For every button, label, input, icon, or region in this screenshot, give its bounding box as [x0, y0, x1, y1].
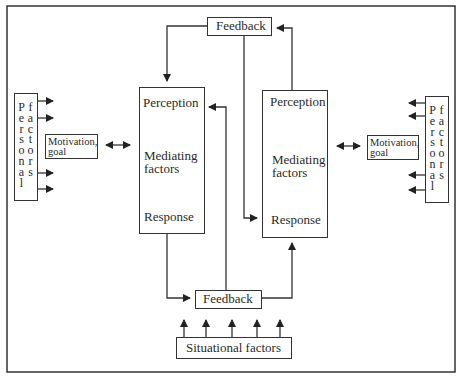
feedback-top-label: Feedback: [216, 19, 266, 33]
arrow-feedback-to-right-response: [244, 35, 257, 218]
left-motivation-line2: goal: [48, 146, 66, 158]
left-personal-col: Personal: [17, 102, 26, 188]
right-motivation-line2: goal: [370, 147, 388, 159]
feedback-top-box: Feedback: [207, 17, 272, 36]
arrow-bottom-feedback-to-left-perception: [209, 107, 226, 290]
right-process-box: Perception Mediating factors Response: [262, 90, 328, 238]
left-motivation-box: Motivation, goal: [45, 134, 98, 159]
arrow-feedback-to-left-perception: [167, 26, 207, 81]
arrow-feedback-to-right-response-bottom: [262, 243, 292, 298]
right-personal-col: Personal: [428, 105, 437, 191]
right-factors-col: factors: [437, 105, 446, 181]
left-personal-factors-box: Personal factors: [14, 93, 38, 201]
left-response-label: Response: [144, 210, 194, 224]
situational-factors-box: Situational factors: [176, 337, 292, 359]
right-mediating-label-2: factors: [272, 166, 307, 180]
right-motivation-box: Motivation, goal: [367, 135, 419, 160]
right-perception-label: Perception: [270, 95, 326, 109]
left-factors-col: factors: [26, 102, 35, 178]
left-mediating-label-2: factors: [144, 162, 179, 176]
situational-factors-label: Situational factors: [186, 341, 281, 355]
arrow-left-response-to-feedback: [167, 233, 190, 298]
feedback-bottom-box: Feedback: [195, 290, 262, 309]
connector-layer: [0, 0, 461, 379]
feedback-bottom-label: Feedback: [203, 292, 253, 306]
right-personal-factors-box: Personal factors: [425, 96, 449, 203]
left-process-box: Perception Mediating factors Response: [139, 87, 205, 234]
left-perception-label: Perception: [143, 96, 199, 110]
outer-frame: [7, 6, 455, 372]
right-response-label: Response: [271, 213, 321, 227]
arrow-right-perception-to-feedback: [277, 28, 292, 90]
